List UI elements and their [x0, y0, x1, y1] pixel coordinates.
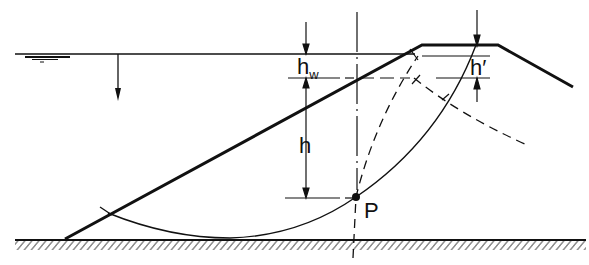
dimension-h [285, 188, 353, 198]
label-hw: hw [297, 56, 319, 78]
label-point-p: P [364, 200, 379, 222]
point-P [352, 193, 360, 201]
label-h-prime: h′ [470, 57, 486, 79]
slip-circle-arc [108, 45, 476, 238]
label-h: h [299, 135, 311, 157]
slope-stability-diagram [0, 0, 589, 265]
dashed-equipotential-line [414, 78, 527, 145]
ground-line-hatched [15, 240, 586, 250]
water-pressure-arrow [115, 54, 121, 101]
label-hw-sub: w [309, 67, 318, 82]
label-hw-main: h [297, 54, 309, 79]
water-level-symbol [25, 57, 70, 62]
dashed-flow-line [353, 56, 418, 258]
embankment-profile [65, 45, 573, 239]
dimension-hw [288, 22, 410, 190]
